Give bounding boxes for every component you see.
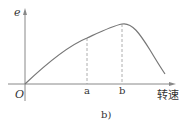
origin-label: O bbox=[15, 89, 24, 100]
diagram-canvas bbox=[0, 0, 189, 132]
figure-caption: b) bbox=[101, 110, 111, 120]
marker-a-label: a bbox=[84, 86, 90, 96]
x-axis-arrow-icon bbox=[169, 82, 176, 86]
marker-b-label: b bbox=[119, 86, 125, 96]
efficiency-curve bbox=[25, 24, 165, 84]
y-axis-arrow-icon bbox=[23, 8, 27, 15]
y-axis-label: e bbox=[14, 7, 21, 18]
x-axis-label: 转速 bbox=[157, 90, 179, 101]
